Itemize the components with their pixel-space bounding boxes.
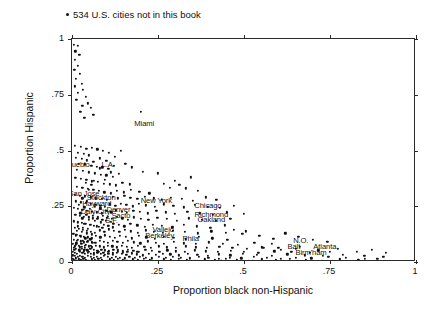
x-tick-label: .75 (323, 266, 336, 276)
y-axis-tick-right (414, 151, 418, 152)
city-label: Chicago (194, 202, 221, 210)
y-tick-label: .75 (51, 89, 64, 99)
x-tick-label: 1 (412, 266, 417, 276)
y-axis-tick (68, 262, 72, 263)
x-tick-label: .25 (151, 266, 164, 276)
city-label: S.F. (105, 217, 118, 225)
legend-note-text: 534 U.S. cities not in this book (73, 9, 201, 20)
y-axis-tick (68, 95, 72, 96)
plot-area: MiamiPuebloL.A.San JoseStocktonHaywardDa… (71, 38, 415, 261)
x-tick-label: .5 (239, 266, 247, 276)
city-label: Berkeley (145, 232, 174, 240)
city-label: L.A. (102, 161, 115, 169)
filled-circle-marker-icon (66, 13, 69, 16)
city-annotations-layer: MiamiPuebloL.A.San JoseStocktonHaywardDa… (72, 39, 414, 260)
y-tick-labels: 0.25.5.751 (38, 0, 64, 309)
city-label: Birm'ham (296, 249, 327, 257)
y-axis-tick (68, 151, 72, 152)
x-axis-tick (330, 260, 331, 264)
x-axis-tick-top (72, 35, 73, 39)
city-label: Pueblo (72, 161, 90, 169)
x-axis-tick-top (244, 35, 245, 39)
x-axis-tick (158, 260, 159, 264)
x-axis-tick-top (158, 35, 159, 39)
y-axis-title: Proportion Hispanic (23, 58, 35, 218)
y-axis-tick-right (414, 95, 418, 96)
city-label: Miami (134, 120, 154, 128)
y-tick-label: 1 (59, 33, 64, 43)
y-tick-label: 0 (59, 256, 64, 266)
x-axis-tick (72, 260, 73, 264)
y-axis-tick (68, 39, 72, 40)
y-axis-tick-right (414, 39, 418, 40)
y-tick-label: .25 (51, 200, 64, 210)
y-tick-label: .5 (56, 145, 64, 155)
y-axis-tick-right (414, 262, 418, 263)
x-axis-tick-top (330, 35, 331, 39)
x-axis-tick (244, 260, 245, 264)
city-label: Oakland (198, 216, 226, 224)
scatter-plot-figure: 534 U.S. cities not in this book MiamiPu… (0, 0, 441, 309)
x-axis-title: Proportion black non-Hispanic (71, 284, 415, 296)
city-label: New York (141, 197, 172, 205)
y-axis-tick (68, 206, 72, 207)
city-label: Phila (182, 235, 198, 243)
x-tick-label: 0 (68, 266, 73, 276)
y-axis-tick-right (414, 206, 418, 207)
legend-note: 534 U.S. cities not in this book (66, 9, 201, 21)
